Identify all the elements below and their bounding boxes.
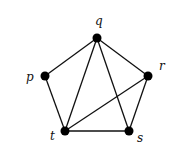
node-label-r: r	[159, 59, 166, 73]
node-r	[144, 72, 153, 81]
node-q	[93, 34, 102, 43]
node-label-t: t	[50, 129, 55, 143]
graph-edges	[45, 38, 148, 131]
edge-q-r	[97, 38, 148, 76]
node-s	[125, 127, 134, 136]
node-t	[61, 127, 70, 136]
edge-r-t	[65, 76, 148, 131]
node-label-s: s	[137, 131, 143, 145]
node-label-q: q	[95, 14, 103, 28]
edge-q-s	[97, 38, 129, 131]
node-label-p: p	[26, 70, 34, 84]
edge-p-q	[45, 38, 97, 76]
graph-diagram: qprts	[0, 0, 173, 145]
node-p	[41, 72, 50, 81]
edge-r-s	[129, 76, 148, 131]
edge-p-t	[45, 76, 65, 131]
edge-q-t	[65, 38, 97, 131]
